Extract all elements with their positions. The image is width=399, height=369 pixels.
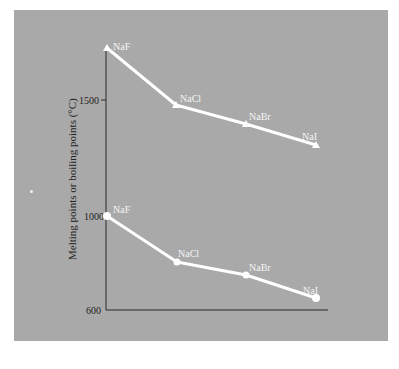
label-melting-nai: NaI (303, 285, 318, 296)
label-boiling-nacl: NaCl (180, 93, 201, 104)
label-melting-naf: NaF (113, 204, 131, 215)
boiling-line (107, 48, 316, 145)
melting-line (107, 216, 316, 298)
label-boiling-naf: NaF (113, 41, 131, 52)
tick-label-1500: 1500 (79, 95, 99, 106)
chart-svg: 1500 1000 600 Melting points or boiling … (0, 0, 399, 369)
tick-label-600: 600 (86, 305, 101, 316)
triangle-marker-naf (103, 44, 111, 51)
label-melting-nacl: NaCl (178, 248, 199, 259)
circle-marker-nacl (174, 259, 181, 266)
tick-label-1000: 1000 (84, 211, 104, 222)
circle-marker-naf (103, 212, 111, 220)
label-boiling-nabr: NaBr (249, 111, 271, 122)
label-boiling-nai: NaI (302, 131, 317, 142)
label-melting-nabr: NaBr (249, 262, 271, 273)
y-axis-title: Melting points or boiling points (°C) (66, 98, 79, 260)
